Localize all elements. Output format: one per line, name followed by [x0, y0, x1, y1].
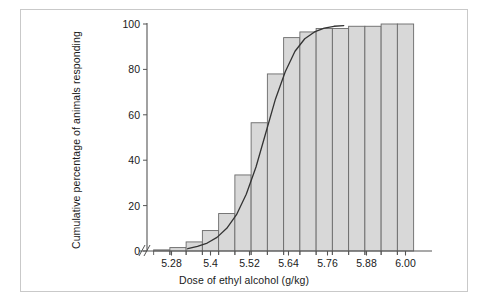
- bar: [300, 32, 316, 251]
- bar: [251, 123, 267, 251]
- x-tick-label: 5.4: [203, 257, 218, 269]
- y-tick-label: 0: [110, 245, 140, 257]
- x-axis-title: Dose of ethyl alcohol (g/kg): [0, 274, 488, 286]
- x-tick-label: 5.52: [239, 257, 259, 269]
- bar: [381, 24, 397, 251]
- y-tick-label: 100: [110, 18, 140, 30]
- y-tick-label: 20: [110, 200, 140, 212]
- x-tick-label: 5.64: [278, 257, 298, 269]
- bar: [186, 242, 202, 251]
- bar: [349, 26, 365, 251]
- x-tick-label: 5.76: [317, 257, 337, 269]
- y-tick-label: 80: [110, 63, 140, 75]
- bar: [316, 29, 332, 251]
- bar: [219, 214, 235, 251]
- bar: [397, 24, 413, 251]
- bar-series: [154, 24, 414, 251]
- x-tick-label: 6.00: [395, 257, 415, 269]
- y-tick-label: 40: [110, 154, 140, 166]
- x-tick-label: 5.28: [161, 257, 181, 269]
- bar: [332, 29, 348, 251]
- y-tick-label: 60: [110, 109, 140, 121]
- bar: [365, 26, 381, 251]
- x-tick-label: 5.88: [356, 257, 376, 269]
- chart-container: Cumulative percentage of animals respond…: [0, 0, 488, 308]
- y-axis-title: Cumulative percentage of animals respond…: [70, 31, 82, 249]
